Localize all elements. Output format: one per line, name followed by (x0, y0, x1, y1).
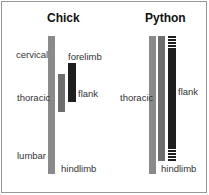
python-flank-stripe (168, 38, 176, 39)
chick-label-thoracic: thoracic (17, 92, 50, 103)
python-title: Python (145, 11, 186, 25)
python-flank-stripe (168, 47, 176, 48)
chick-title: Chick (47, 11, 80, 25)
chick-axial-bar (48, 36, 55, 174)
chick-label-forelimb: forelimb (68, 51, 102, 62)
chick-label-lumbar: lumbar (17, 150, 46, 161)
chick-label-flank: flank (78, 88, 98, 99)
python-flank-stripe (168, 149, 176, 150)
python-flank-stripe (168, 152, 176, 153)
chick-flank-bar (68, 63, 76, 102)
python-flank-stripe (168, 155, 176, 156)
python-flank-stripe (168, 44, 176, 45)
python-flank-stripe (168, 41, 176, 42)
chick-label-hindlimb: hindlimb (61, 163, 96, 174)
python-axial-bar (149, 36, 156, 174)
chick-label-cervical: cervical (16, 49, 48, 60)
chick-forelimb-domain-bar (58, 74, 65, 112)
python-label-flank: flank (178, 86, 198, 97)
python-label-hindlimb: hindlimb (161, 163, 196, 174)
python-thoracic-domain-bar (158, 36, 165, 161)
python-flank-stripe (168, 158, 176, 159)
python-flank-bar (168, 36, 176, 161)
python-label-thoracic: thoracic (120, 92, 153, 103)
